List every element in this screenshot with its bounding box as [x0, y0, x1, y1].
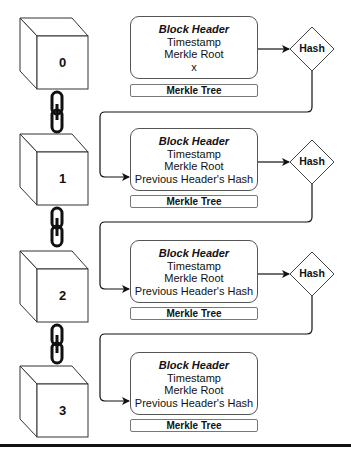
- merkle-tree-2: Merkle Tree: [130, 307, 258, 320]
- merkle-tree-3: Merkle Tree: [130, 419, 258, 432]
- header-field-previous-hash: Previous Header's Hash: [131, 173, 257, 186]
- chain-link-icon: [52, 208, 62, 246]
- merkle-tree-0: Merkle Tree: [130, 84, 258, 97]
- hash-label-2: Hash: [290, 267, 334, 279]
- header-field-timestamp: Timestamp: [131, 36, 257, 49]
- block-header-2: Block Header Timestamp Merkle Root Previ…: [130, 240, 258, 303]
- header-field-previous-hash: x: [131, 61, 257, 74]
- block-header-1: Block Header Timestamp Merkle Root Previ…: [130, 128, 258, 191]
- bottom-divider: [0, 444, 351, 447]
- block-number-1: 1: [37, 171, 88, 186]
- chain-link-icon: [52, 92, 62, 132]
- block-number-2: 2: [37, 288, 88, 303]
- block-header-title: Block Header: [131, 135, 257, 148]
- header-field-timestamp: Timestamp: [131, 260, 257, 273]
- hash-label-0: Hash: [290, 42, 334, 54]
- hash-label-1: Hash: [290, 155, 334, 167]
- header-field-merkle-root: Merkle Root: [131, 384, 257, 397]
- block-header-title: Block Header: [131, 247, 257, 260]
- header-field-previous-hash: Previous Header's Hash: [131, 285, 257, 298]
- merkle-tree-1: Merkle Tree: [130, 195, 258, 208]
- chain-link-icon: [52, 325, 62, 363]
- block-cube-1: [20, 134, 88, 205]
- block-cube-3: [20, 366, 88, 437]
- header-field-merkle-root: Merkle Root: [131, 160, 257, 173]
- block-header-3: Block Header Timestamp Merkle Root Previ…: [130, 352, 258, 415]
- header-field-timestamp: Timestamp: [131, 148, 257, 161]
- block-number-0: 0: [37, 55, 88, 70]
- block-header-0: Block Header Timestamp Merkle Root x: [130, 16, 258, 79]
- header-field-merkle-root: Merkle Root: [131, 272, 257, 285]
- block-header-title: Block Header: [131, 23, 257, 36]
- header-field-timestamp: Timestamp: [131, 372, 257, 385]
- block-number-3: 3: [37, 403, 88, 418]
- header-field-merkle-root: Merkle Root: [131, 48, 257, 61]
- block-cube-2: [20, 251, 88, 322]
- block-header-title: Block Header: [131, 359, 257, 372]
- header-field-previous-hash: Previous Header's Hash: [131, 397, 257, 410]
- block-cube-0: [20, 18, 88, 89]
